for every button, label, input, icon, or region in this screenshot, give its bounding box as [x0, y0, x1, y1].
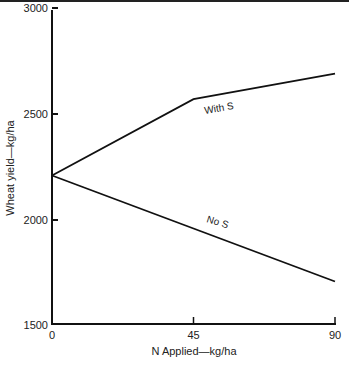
y-tick-label: 3000: [24, 2, 48, 14]
y-tick-label: 1500: [24, 319, 48, 331]
y-tick-label: 2000: [24, 214, 48, 226]
x-tick-label: 90: [329, 329, 341, 341]
x-axis-title: N Applied—kg/ha: [152, 345, 238, 357]
x-tick-label: 0: [49, 329, 55, 341]
line-chart: 1500200025003000 04590 With S No S N App…: [0, 0, 349, 366]
series-no-s-line: [52, 176, 335, 282]
series-with-s-line: [52, 74, 335, 176]
x-ticks: 04590: [49, 317, 341, 341]
y-tick-label: 2500: [24, 108, 48, 120]
x-tick-label: 45: [187, 329, 199, 341]
series-label-no-s: No S: [205, 213, 230, 230]
series-label-with-s: With S: [203, 100, 234, 116]
y-axis-title: Wheat yield—kg/ha: [4, 119, 16, 215]
